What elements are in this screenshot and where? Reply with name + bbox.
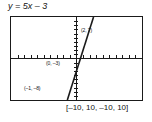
point-label-2: (0, –3) [46, 60, 60, 66]
equation-title: y = 5x – 3 [8, 1, 47, 11]
plot-frame: (2, 7) (0, –3) (–1, –8) [10, 16, 143, 101]
point-label-3: (–1, –8) [24, 85, 40, 91]
window-caption: [–10, 10, –10, 10] [66, 103, 128, 112]
graph-figure: y = 5x – 3 (2, 7) (0, –3) (–1, –8) [–10,… [0, 0, 152, 122]
point-label-1: (2, 7) [81, 27, 92, 33]
